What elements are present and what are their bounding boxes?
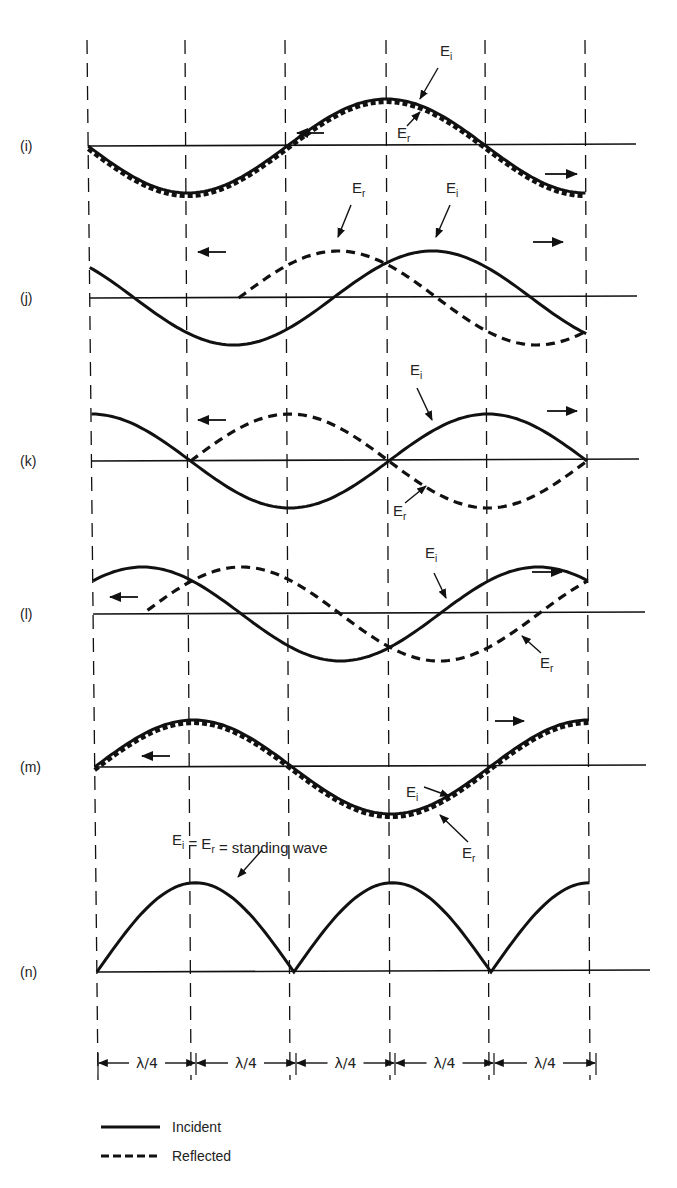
gridline — [386, 40, 390, 1080]
label-Ei: Ei — [410, 361, 422, 381]
leader-arrow-icon — [407, 112, 420, 126]
axis-line — [91, 459, 639, 461]
legend-reflected-label: Reflected — [172, 1148, 231, 1164]
reflected-wave-curve — [95, 723, 589, 817]
dimension-label: λ/4 — [136, 1055, 158, 1071]
dimension-label: λ/4 — [335, 1055, 357, 1071]
leader-arrow-icon — [405, 486, 426, 503]
panel-m — [95, 720, 646, 817]
leader-arrow-icon — [440, 815, 468, 842]
panel-label-l: (l) — [20, 606, 32, 622]
label-Er: Er — [393, 502, 407, 522]
annotation-Er-j: Er — [338, 179, 366, 237]
gridline — [87, 40, 98, 1080]
axis-line — [88, 144, 636, 146]
label-Ei: Ei — [406, 783, 418, 803]
label-Er: Er — [540, 654, 554, 674]
panel-k — [91, 411, 639, 508]
leader-arrow-icon — [338, 205, 351, 237]
gridline — [285, 40, 290, 1080]
legend: Incident Reflected — [101, 1119, 231, 1164]
quarter-wavelength-gridlines — [87, 40, 590, 1080]
gridline — [585, 40, 590, 1080]
annotation-Er-i: Er — [397, 112, 420, 144]
dimension-quarter-wavelength: λ/4 — [297, 1055, 394, 1071]
label-Er: Er — [397, 124, 411, 144]
panel-l — [93, 567, 645, 661]
label-Er: Er — [462, 844, 476, 864]
axis-line — [95, 765, 646, 767]
annotation-Er-l: Er — [522, 636, 554, 674]
legend-incident-label: Incident — [172, 1119, 221, 1135]
leader-arrow-icon — [436, 205, 450, 237]
quarter-wavelength-dimensions: λ/4λ/4λ/4λ/4λ/4 — [98, 1053, 596, 1075]
annotation-Ei-k: Ei — [410, 361, 432, 420]
panel-n — [97, 883, 650, 972]
leader-arrow-icon — [434, 573, 446, 598]
dimension-quarter-wavelength: λ/4 — [495, 1055, 595, 1071]
dimension-quarter-wavelength: λ/4 — [99, 1055, 195, 1071]
leader-arrow-icon — [522, 636, 541, 653]
dimension-label: λ/4 — [434, 1055, 456, 1071]
axis-line — [93, 612, 645, 614]
panel-label-k: (k) — [20, 453, 36, 469]
annotation-Ei-l: Ei — [425, 544, 446, 598]
leader-arrow-icon — [424, 787, 449, 796]
panel-label-n: (n) — [20, 964, 37, 980]
annotation-Er-k: Er — [393, 486, 426, 522]
standing-wave-curve — [97, 883, 590, 972]
axis-line — [97, 970, 650, 972]
label-Ei: Ei — [440, 42, 452, 62]
panel-label-m: (m) — [20, 759, 41, 775]
label-Er: Er — [352, 179, 366, 199]
dimension-label: λ/4 — [235, 1055, 257, 1071]
dimension-quarter-wavelength: λ/4 — [197, 1055, 295, 1071]
standing-wave-caption: Ei = Er = standing wave — [172, 831, 328, 856]
wave-diagram: (i)(j)(k)(l)(m)(n) EiErErEiEiErEiErEiErE… — [0, 0, 677, 1188]
annotation-Ei-j: Ei — [436, 179, 458, 237]
panel-label-i: (i) — [20, 138, 32, 154]
panel-j — [90, 242, 637, 345]
panel-label-j: (j) — [20, 290, 32, 306]
annotation-Ei-i: Ei — [420, 42, 452, 99]
label-Ei: Ei — [446, 179, 458, 199]
panel-i — [88, 99, 636, 196]
dimension-label: λ/4 — [534, 1055, 556, 1071]
panel-labels: (i)(j)(k)(l)(m)(n) — [20, 138, 41, 980]
label-Ei: Ei — [425, 544, 437, 564]
dimension-quarter-wavelength: λ/4 — [396, 1055, 493, 1071]
gridline — [485, 40, 489, 1080]
reflected-wave-curve — [88, 102, 585, 196]
axis-line — [90, 296, 637, 298]
annotation-Er-m: Er — [440, 815, 476, 864]
leader-arrow-icon — [417, 388, 432, 420]
annotation-Ei-n: Ei = Er = standing wave — [172, 831, 328, 877]
leader-arrow-icon — [420, 68, 438, 99]
